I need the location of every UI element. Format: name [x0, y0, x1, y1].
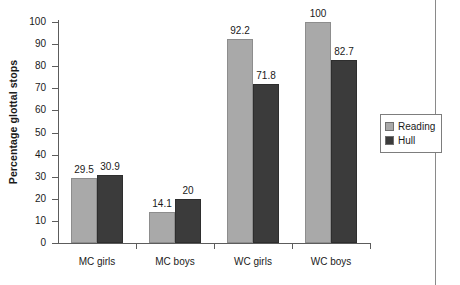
bar-chart-figure: Percentage glottal stops 010203040506070… [0, 0, 460, 285]
x-axis-label-wc-girls: WC girls [214, 256, 292, 267]
bar-value-label: 82.7 [324, 47, 364, 57]
x-axis-tick [214, 243, 215, 249]
bar-hull-wc-girls [253, 84, 279, 243]
bar-value-label: 100 [298, 9, 338, 19]
y-axis-tick-label: 100 [29, 17, 46, 27]
x-axis-label-mc-boys: MC boys [136, 256, 214, 267]
legend-label-hull: Hull [398, 136, 415, 146]
x-axis-tick [136, 243, 137, 249]
y-axis-tick-label: 60 [35, 105, 46, 115]
x-axis-label-mc-girls: MC girls [58, 256, 136, 267]
y-axis-tick-label: 50 [35, 128, 46, 138]
legend-item-hull[interactable]: Hull [385, 134, 435, 147]
legend-swatch-hull-icon [385, 136, 394, 145]
y-axis-tick-label: 70 [35, 83, 46, 93]
bar-value-label: 92.2 [220, 26, 260, 36]
y-axis-title: Percentage glottal stops [2, 0, 24, 243]
y-axis-tick-label: 80 [35, 61, 46, 71]
y-axis-tick-label: 10 [35, 216, 46, 226]
bar-hull-wc-boys [331, 60, 357, 243]
y-axis-tick-label: 20 [35, 194, 46, 204]
legend-swatch-reading-icon [385, 122, 394, 131]
x-axis-label-wc-boys: WC boys [292, 256, 370, 267]
bar-reading-wc-girls [227, 39, 253, 243]
legend-label-reading: Reading [398, 122, 435, 132]
bar-hull-mc-girls [97, 175, 123, 243]
x-axis-tick [370, 243, 371, 249]
chart-legend: Reading Hull [380, 114, 442, 153]
bar-value-label: 14.1 [142, 199, 182, 209]
y-axis-tick [52, 243, 59, 244]
legend-item-reading[interactable]: Reading [385, 120, 435, 133]
bar-reading-mc-girls [71, 178, 97, 243]
y-axis-tick-label: 0 [40, 238, 46, 248]
y-axis-tick-label: 30 [35, 172, 46, 182]
x-axis-tick [292, 243, 293, 249]
bar-value-label: 20 [168, 186, 208, 196]
y-axis-tick-label: 90 [35, 39, 46, 49]
bar-value-label: 71.8 [246, 71, 286, 81]
y-axis-title-text: Percentage glottal stops [7, 59, 19, 183]
y-axis-tick-label: 40 [35, 150, 46, 160]
bar-reading-mc-boys [149, 212, 175, 243]
bar-value-label: 30.9 [90, 162, 130, 172]
